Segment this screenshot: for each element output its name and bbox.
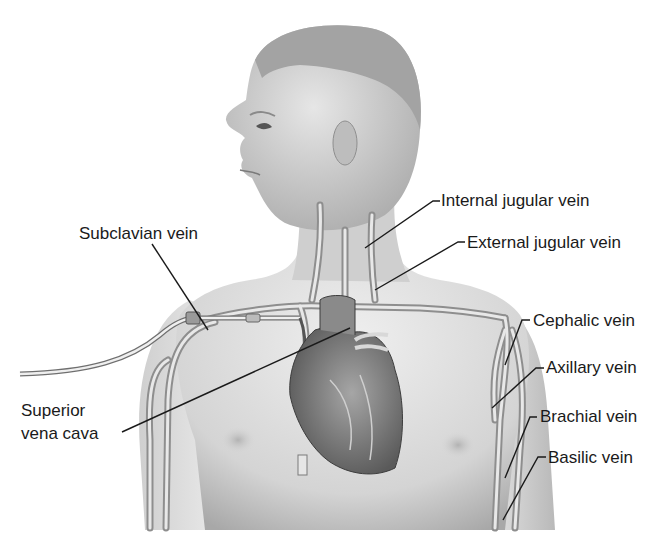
label-brachial-vein: Brachial vein — [540, 407, 637, 427]
label-superior-vena-cava-line1: Superior — [21, 401, 85, 421]
label-external-jugular-vein: External jugular vein — [467, 233, 621, 253]
label-subclavian-vein: Subclavian vein — [79, 224, 198, 244]
label-basilic-vein: Basilic vein — [548, 448, 633, 468]
label-axillary-vein: Axillary vein — [546, 358, 637, 378]
ear — [333, 121, 357, 165]
label-internal-jugular-vein: Internal jugular vein — [441, 191, 589, 211]
label-cephalic-vein: Cephalic vein — [533, 311, 635, 331]
label-superior-vena-cava-line2: vena cava — [21, 424, 99, 444]
anatomy-diagram: Internal jugular vein External jugular v… — [0, 0, 672, 548]
